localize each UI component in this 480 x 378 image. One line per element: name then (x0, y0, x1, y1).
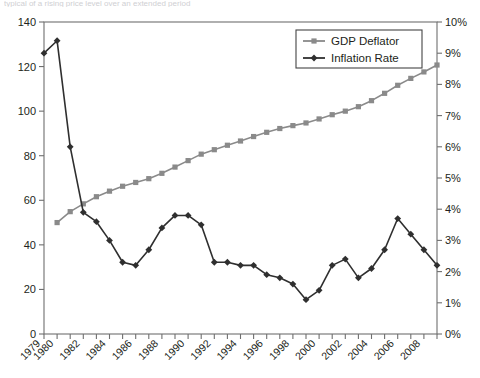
right-axis-tick-label: 5% (445, 172, 461, 184)
data-point-marker (317, 116, 322, 121)
data-point-marker (395, 83, 400, 88)
x-axis-tick-label: 1990 (162, 337, 187, 362)
chart-legend: GDP DeflatorInflation Rate (296, 30, 422, 68)
x-axis-tick-label: 1998 (266, 337, 291, 362)
data-point-marker (55, 220, 60, 225)
data-point-marker (225, 143, 230, 148)
right-axis-tick-label: 2% (445, 266, 461, 278)
data-point-marker (120, 184, 125, 189)
data-point-marker (434, 62, 439, 67)
data-point-marker (199, 152, 204, 157)
right-axis-tick-label: 4% (445, 203, 461, 215)
x-axis-tick-label: 1992 (188, 337, 213, 362)
right-axis-tick-label: 9% (445, 47, 461, 59)
data-point-marker (343, 109, 348, 114)
x-axis-tick-label: 1996 (240, 337, 265, 362)
legend-label: Inflation Rate (331, 52, 399, 64)
x-axis: 1979198019821984198619881990199219941996… (17, 334, 437, 362)
data-point-marker (303, 120, 308, 125)
left-axis-tick-label: 120 (18, 61, 36, 73)
data-point-marker (212, 147, 217, 152)
chart-page: typical of a rising price level over an … (0, 0, 480, 378)
x-axis-tick-label: 2004 (345, 337, 370, 362)
x-axis-tick-label: 1984 (83, 337, 108, 362)
data-point-marker (264, 130, 269, 135)
data-point-marker (421, 69, 426, 74)
right-axis-tick-label: 10% (445, 16, 467, 28)
data-point-marker (330, 112, 335, 117)
left-axis: 020406080100120140 (18, 16, 44, 340)
right-axis-tick-label: 1% (445, 297, 461, 309)
data-point-marker (133, 180, 138, 185)
x-axis-tick-label: 2008 (397, 337, 422, 362)
plot-frame (44, 22, 437, 334)
x-axis-tick-label: 2002 (319, 337, 344, 362)
data-point-marker (238, 138, 243, 143)
data-point-marker (146, 176, 151, 181)
data-point-marker (107, 189, 112, 194)
data-point-marker (172, 164, 177, 169)
left-axis-tick-label: 60 (24, 194, 36, 206)
x-axis-tick-label: 2006 (371, 337, 396, 362)
x-axis-tick-label: 1982 (57, 337, 82, 362)
data-point-marker (290, 123, 295, 128)
left-axis-tick-label: 40 (24, 239, 36, 251)
data-point-marker (408, 76, 413, 81)
x-axis-tick-label: 1986 (109, 337, 134, 362)
data-point-marker (382, 91, 387, 96)
data-point-marker (251, 134, 256, 139)
right-axis: 0%1%2%3%4%5%6%7%8%9%10% (437, 16, 467, 340)
left-axis-tick-label: 140 (18, 16, 36, 28)
data-point-marker (277, 126, 282, 131)
right-axis-tick-label: 7% (445, 110, 461, 122)
data-point-marker (311, 38, 316, 43)
x-axis-tick-label: 2000 (293, 337, 318, 362)
x-axis-tick-label: 1988 (135, 337, 160, 362)
left-axis-tick-label: 80 (24, 150, 36, 162)
dual-axis-line-chart: 020406080100120140 0%1%2%3%4%5%6%7%8%9%1… (0, 0, 480, 378)
right-axis-tick-label: 3% (445, 234, 461, 246)
x-axis-tick-label: 1994 (214, 337, 239, 362)
left-axis-tick-label: 20 (24, 283, 36, 295)
plot-area-border (44, 22, 437, 334)
right-axis-tick-label: 8% (445, 78, 461, 90)
data-point-marker (94, 194, 99, 199)
right-axis-tick-label: 0% (445, 328, 461, 340)
right-axis-tick-label: 6% (445, 141, 461, 153)
left-axis-tick-label: 100 (18, 105, 36, 117)
data-point-marker (369, 98, 374, 103)
data-point-marker (356, 104, 361, 109)
data-point-marker (68, 209, 73, 214)
legend-label: GDP Deflator (331, 35, 399, 47)
data-point-marker (159, 171, 164, 176)
data-point-marker (186, 158, 191, 163)
